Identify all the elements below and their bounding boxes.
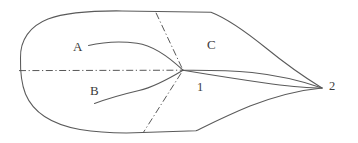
label-vein-a: A (73, 40, 82, 53)
label-region-c: C (207, 38, 216, 51)
label-node-2: 2 (329, 80, 335, 93)
label-vein-b: B (90, 84, 99, 97)
wing-diagram-figure: A B C 1 2 (0, 0, 358, 143)
wing-outline-lower-margin (20, 58, 322, 133)
wing-drawing-canvas (0, 0, 358, 143)
axis-diagonal-dashdot (144, 13, 184, 132)
label-node-1: 1 (197, 81, 203, 94)
vein-a-path (89, 42, 184, 70)
vein-b-path (95, 70, 184, 103)
vein-central-upper (183, 70, 322, 88)
